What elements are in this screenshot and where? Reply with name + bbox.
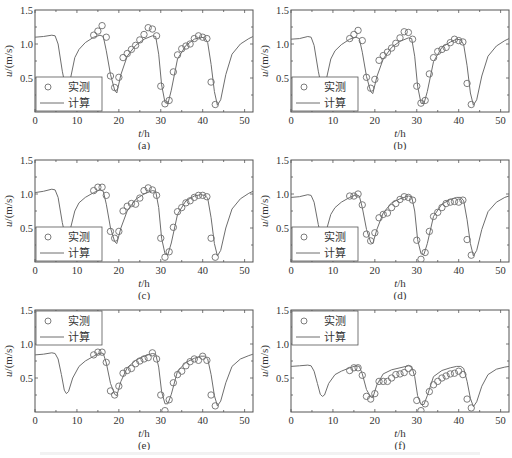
y-axis-label: u/(m/s) [2, 345, 15, 377]
measured-point [149, 350, 155, 356]
measured-point [116, 228, 122, 234]
legend: 实测计算 [292, 227, 358, 261]
x-tick-label: 50 [495, 115, 506, 126]
measured-point [141, 31, 147, 37]
x-tick-label: 30 [412, 265, 423, 276]
y-axis-label: u/(m/s) [258, 45, 271, 77]
measured-point [384, 210, 390, 216]
x-axis-label: t/h [394, 127, 406, 139]
x-tick-label: 20 [114, 415, 125, 426]
measured-point [414, 83, 420, 89]
measured-point [397, 371, 403, 377]
measured-point [179, 368, 185, 374]
measured-point [162, 407, 168, 413]
panel-caption: (e) [138, 439, 151, 450]
x-tick-label: 50 [495, 415, 506, 426]
x-tick-label: 30 [412, 415, 423, 426]
x-tick-label: 40 [197, 115, 208, 126]
chart-panel-b: 010203040500.51.01.5t/hu/(m/s)实测计算(b) [256, 0, 512, 150]
panel-caption: (c) [138, 289, 151, 300]
legend-label-computed: 计算 [68, 330, 90, 344]
x-tick-label: 10 [328, 115, 339, 126]
y-axis-label: u/(m/s) [258, 345, 271, 377]
chart-svg: 010203040500.51.01.5t/hu/(m/s)实测计算(b) [256, 0, 512, 150]
legend-label-measured: 实测 [324, 230, 346, 244]
measured-point [149, 26, 155, 32]
measured-point [388, 375, 394, 381]
x-tick-label: 50 [239, 415, 250, 426]
x-tick-label: 30 [156, 415, 167, 426]
measured-point [397, 35, 403, 41]
measured-point [170, 69, 176, 75]
y-tick-label: 1.5 [20, 155, 33, 166]
y-tick-label: 0.5 [276, 73, 289, 84]
x-axis-label: t/h [138, 277, 150, 289]
x-axis-label: t/h [138, 427, 150, 439]
y-tick-label: 1.0 [276, 339, 289, 350]
measured-point [99, 184, 105, 190]
legend-label-measured: 实测 [68, 314, 90, 328]
figure-caption-strip [40, 452, 480, 455]
measured-point [132, 201, 138, 207]
y-tick-label: 1.5 [276, 155, 289, 166]
chart-panel-d: 010203040500.51.01.5t/hu/(m/s)实测计算(d) [256, 150, 512, 300]
measured-point [116, 74, 122, 80]
chart-svg: 010203040500.51.01.5t/hu/(m/s)实测计算(c) [0, 150, 256, 300]
measured-point [401, 369, 407, 375]
legend: 实测计算 [36, 227, 102, 261]
chart-panel-f: 010203040500.51.01.5t/hu/(m/s)实测计算(f) [256, 300, 512, 450]
measured-point [447, 39, 453, 45]
computed-line [35, 353, 253, 406]
x-tick-label: 10 [72, 415, 83, 426]
legend-label-computed: 计算 [68, 96, 90, 110]
measured-point [162, 254, 168, 260]
legend-label-computed: 计算 [68, 246, 90, 260]
x-tick-label: 50 [239, 265, 250, 276]
measured-point [208, 392, 214, 398]
measured-point [464, 236, 470, 242]
y-tick-label: 0.5 [20, 373, 33, 384]
y-tick-label: 1.5 [20, 305, 33, 316]
y-tick-label: 0.5 [276, 223, 289, 234]
panel-caption: (d) [394, 289, 407, 300]
legend-label-computed: 计算 [324, 246, 346, 260]
legend-label-measured: 实测 [324, 314, 346, 328]
measured-point [158, 83, 164, 89]
y-axis-label: u/(m/s) [2, 45, 15, 77]
y-tick-label: 1.0 [20, 339, 33, 350]
measured-point [414, 237, 420, 243]
chart-svg: 010203040500.51.01.5t/hu/(m/s)实测计算(a) [0, 0, 256, 150]
measured-point [95, 28, 101, 34]
measured-point [128, 46, 134, 52]
measured-point [384, 378, 390, 384]
x-tick-label: 50 [239, 115, 250, 126]
chart-panel-e: 010203040500.51.01.5t/hu/(m/s)实测计算(e) [0, 300, 256, 450]
x-tick-label: 0 [32, 415, 37, 426]
measured-point [107, 388, 113, 394]
panel-caption: (f) [395, 439, 406, 450]
x-axis-label: t/h [394, 277, 406, 289]
x-tick-label: 30 [156, 115, 167, 126]
measured-point [384, 49, 390, 55]
x-tick-label: 0 [288, 115, 293, 126]
x-axis-label: t/h [138, 127, 150, 139]
measured-point [380, 211, 386, 217]
legend-label-computed: 计算 [324, 96, 346, 110]
measured-point [170, 224, 176, 230]
x-tick-label: 30 [412, 115, 423, 126]
y-tick-label: 0.5 [20, 73, 33, 84]
measured-point [426, 71, 432, 77]
measured-point [355, 27, 361, 33]
measured-point [435, 378, 441, 384]
x-tick-label: 40 [197, 415, 208, 426]
y-tick-label: 1.5 [276, 305, 289, 316]
legend: 实测计算 [36, 311, 102, 345]
measured-point [212, 254, 218, 260]
x-tick-label: 40 [453, 115, 464, 126]
computed-line [291, 365, 509, 407]
measured-point [103, 34, 109, 40]
legend: 实测计算 [292, 77, 358, 111]
measured-point [145, 24, 151, 30]
x-tick-label: 40 [453, 265, 464, 276]
measured-point [372, 76, 378, 82]
